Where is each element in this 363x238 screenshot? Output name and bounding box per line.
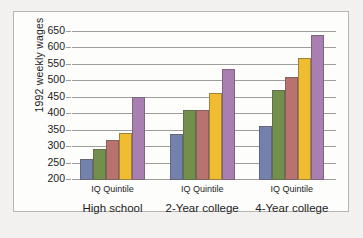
x-axis-quintile-label: IQ Quintile bbox=[91, 184, 134, 194]
bar bbox=[93, 149, 106, 180]
y-tick-mark bbox=[66, 47, 71, 48]
y-tick-mark bbox=[66, 130, 71, 131]
y-tick-label: 350 bbox=[47, 123, 65, 135]
x-group-label: IQ Quintile4-Year college bbox=[237, 184, 347, 214]
bar bbox=[132, 97, 145, 180]
y-tick-mark bbox=[66, 97, 71, 98]
bar-group bbox=[170, 32, 235, 180]
bar bbox=[272, 90, 285, 180]
y-tick-mark bbox=[66, 179, 71, 180]
y-tick-label: 300 bbox=[47, 139, 65, 151]
y-tick-label: 550 bbox=[47, 57, 65, 69]
bar bbox=[209, 93, 222, 180]
bar bbox=[183, 110, 196, 180]
chart-figure: 1992 weekly wages 2002503003504004505005… bbox=[13, 11, 349, 212]
bar bbox=[196, 110, 209, 180]
y-tick-label: 450 bbox=[47, 90, 65, 102]
bar bbox=[106, 140, 119, 180]
bar bbox=[170, 134, 183, 180]
y-tick-mark bbox=[66, 146, 71, 147]
y-tick-mark bbox=[66, 64, 71, 65]
bar bbox=[311, 35, 324, 180]
bar bbox=[80, 159, 93, 180]
y-tick-label: 500 bbox=[47, 73, 65, 85]
bar-group bbox=[80, 32, 145, 180]
x-axis-category-label: 4-Year college bbox=[237, 202, 347, 214]
bar-group bbox=[259, 32, 324, 180]
y-tick-label: 250 bbox=[47, 156, 65, 168]
bar bbox=[119, 133, 132, 180]
y-tick-mark bbox=[66, 163, 71, 164]
y-tick-label: 600 bbox=[47, 40, 65, 52]
y-tick-label: 200 bbox=[47, 172, 65, 184]
y-axis-title: 1992 weekly wages bbox=[33, 13, 47, 117]
bar bbox=[222, 69, 235, 180]
bar bbox=[298, 58, 311, 180]
bar bbox=[285, 77, 298, 180]
x-axis-quintile-label: IQ Quintile bbox=[271, 184, 314, 194]
bar-series-container bbox=[72, 32, 332, 180]
bar bbox=[259, 126, 272, 180]
y-tick-mark bbox=[66, 31, 71, 32]
plot-area: 200250300350400450500550600650 bbox=[72, 32, 332, 180]
x-axis-quintile-label: IQ Quintile bbox=[181, 184, 224, 194]
y-tick-mark bbox=[66, 80, 71, 81]
y-tick-mark bbox=[66, 113, 71, 114]
y-tick-label: 400 bbox=[47, 106, 65, 118]
y-tick-label: 650 bbox=[47, 24, 65, 36]
